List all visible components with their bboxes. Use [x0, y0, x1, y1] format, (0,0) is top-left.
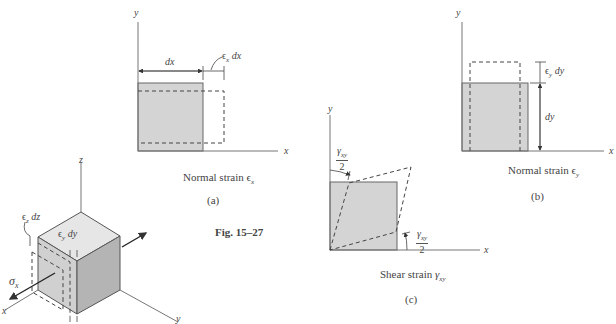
panel-b-tag: (b) [531, 191, 544, 202]
panel-b-x-axis-label: x [609, 146, 613, 156]
panel-c-drawing [330, 115, 480, 250]
figure-number: Fig. 15–27 [215, 227, 263, 238]
panel-b-dy-label: dy [545, 112, 554, 122]
panel-a-caption: Normal strain ϵx [183, 172, 254, 186]
panel-c-y-axis-label: y [328, 104, 332, 114]
panel-c-tag: (c) [405, 294, 417, 305]
panel-b-strain-label: ϵy dy [545, 66, 564, 79]
panel-c-x-axis-label: x [484, 245, 488, 255]
panel-a-x-axis-label: x [284, 146, 288, 156]
panel-c-angle-label-bottom: γxy 2 [416, 229, 428, 255]
stress-arrow-right [122, 233, 146, 247]
panel-b-drawing [462, 22, 604, 151]
y-axis-cube [120, 290, 178, 322]
cube-drawing [5, 162, 178, 322]
panel-a-drawing [138, 22, 278, 151]
original-element-a [138, 83, 203, 151]
cube-strain-y-label: ϵy dy [58, 229, 77, 242]
panel-b-y-axis-label: y [456, 8, 460, 18]
cube-y-axis-label: y [176, 314, 180, 324]
panel-a-tag: (a) [207, 195, 219, 206]
cube-strain-z-label: ϵz dz [22, 212, 40, 225]
panel-a-strain-label: ϵx dx [222, 51, 241, 64]
panel-a-y-axis-label: y [134, 8, 138, 18]
cube-z-axis-label: z [79, 155, 83, 165]
panel-c-caption: Shear strain γxy [380, 269, 446, 283]
cube-stress-label: σx [9, 275, 18, 290]
panel-c-angle-label-top: γxy 2 [336, 146, 348, 172]
panel-a-dx-label: dx [165, 57, 174, 67]
figure-drawing [0, 0, 616, 324]
panel-b-caption: Normal strain ϵy [508, 165, 579, 179]
original-element-b [462, 83, 528, 151]
cube-x-axis-label: x [2, 306, 6, 316]
